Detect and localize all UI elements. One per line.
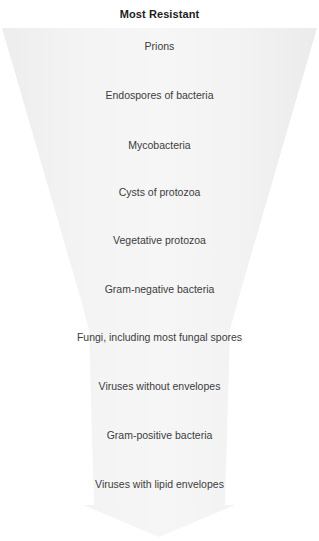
tier-label-4: Cysts of protozoa [0,186,319,198]
page-title: Most Resistant [0,8,319,20]
tier-label-2: Endospores of bacteria [0,89,319,101]
tier-label-7: Fungi, including most fungal spores [0,331,319,343]
resistance-funnel-figure: Most Resistant Prions Endospores of bact… [0,0,319,541]
tier-label-10: Viruses with lipid envelopes [0,478,319,490]
tier-label-8: Viruses without envelopes [0,380,319,392]
funnel-arrow-shape [0,0,319,541]
tier-label-9: Gram-positive bacteria [0,429,319,441]
tier-label-1: Prions [0,40,319,52]
tier-label-5: Vegetative protozoa [0,234,319,246]
tier-label-3: Mycobacteria [0,139,319,151]
tier-label-6: Gram-negative bacteria [0,283,319,295]
